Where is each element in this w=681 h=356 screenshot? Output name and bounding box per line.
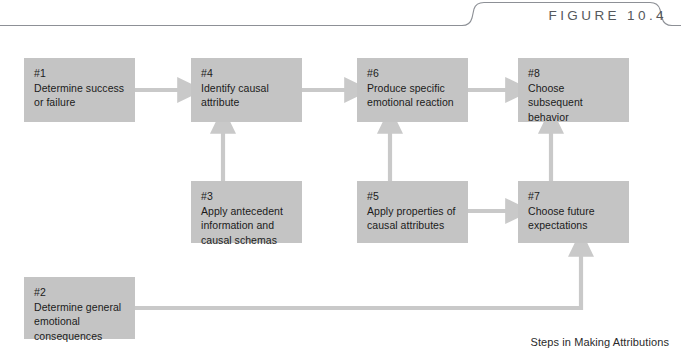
flow-node-text: Choose subsequent behavior: [528, 81, 620, 124]
flow-node-id: #3: [201, 189, 293, 203]
flow-node-id: #5: [367, 189, 459, 203]
figure-label: FIGURE 10.4: [549, 8, 667, 23]
flow-node-4: #4Identify causal attribute: [191, 58, 302, 122]
figure-caption: Steps in Making Attributions: [530, 336, 669, 348]
flow-node-id: #7: [528, 189, 620, 203]
flow-node-8: #8Choose subsequent behavior: [518, 58, 629, 122]
flow-node-id: #6: [367, 66, 459, 80]
flow-node-3: #3Apply antecedent information and causa…: [191, 181, 302, 243]
arrow-2-to-7: [135, 256, 581, 308]
flow-node-text: Apply antecedent information and causal …: [201, 204, 293, 247]
flow-node-1: #1Determine success or failure: [24, 58, 135, 122]
flow-node-5: #5Apply properties of causal attributes: [357, 181, 468, 243]
flow-node-text: Produce specific emotional reaction: [367, 81, 459, 109]
flow-node-text: Choose future expectations: [528, 204, 620, 232]
flow-node-id: #8: [528, 66, 620, 80]
flow-node-text: Determine success or failure: [34, 81, 126, 109]
flow-node-id: #1: [34, 66, 126, 80]
figure-header-rule: [0, 0, 681, 46]
flow-node-7: #7Choose future expectations: [518, 181, 629, 243]
flow-node-6: #6Produce specific emotional reaction: [357, 58, 468, 122]
flow-node-text: Identify causal attribute: [201, 81, 293, 109]
flow-node-text: Apply properties of causal attributes: [367, 204, 459, 232]
flow-node-id: #2: [34, 285, 126, 299]
figure-container: FIGURE 10.4: [0, 0, 681, 356]
flow-node-text: Determine general emotional consequences: [34, 300, 126, 343]
flow-node-2: #2Determine general emotional consequenc…: [24, 277, 135, 339]
flow-node-id: #4: [201, 66, 293, 80]
